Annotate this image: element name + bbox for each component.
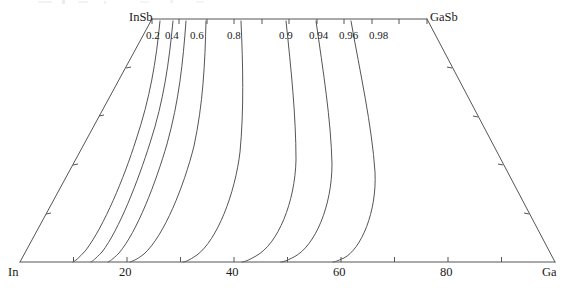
contour-label-0-4: 0.4: [165, 30, 179, 41]
contour-curve-0.98: [333, 21, 375, 262]
contour-curve-0.2: [73, 21, 160, 262]
contour-label-0-8: 0.8: [227, 30, 241, 41]
tick-left-2: [73, 164, 78, 165]
figure-canvas: InSb GaSb In Ga 20 40 60 80 0.2 0.4 0.6 …: [0, 0, 572, 290]
tick-right-2: [473, 116, 478, 117]
contour-plot-svg: [0, 0, 572, 290]
vertex-label-gasb: GaSb: [430, 11, 458, 24]
top-axis-ticks: [152, 19, 427, 24]
contour-curve-0.94: [242, 21, 296, 262]
contour-label-0-98: 0.98: [369, 30, 388, 41]
contour-label-0-94: 0.94: [309, 30, 328, 41]
contour-label-0-6: 0.6: [190, 30, 204, 41]
plot-frame: [20, 19, 555, 262]
axis-tick-label-40: 40: [226, 266, 239, 279]
vertex-label-in: In: [8, 266, 18, 279]
left-axis-ticks: [46, 67, 131, 214]
contour-curves: [73, 21, 375, 262]
contour-label-0-96: 0.96: [339, 30, 358, 41]
contour-curve-0.9: [183, 21, 243, 262]
axis-left: [20, 19, 152, 262]
axis-tick-label-80: 80: [440, 266, 453, 279]
tick-right-3: [498, 164, 503, 165]
bottom-axis-ticks: [74, 257, 502, 262]
contour-label-0-9: 0.9: [279, 30, 293, 41]
axis-tick-label-20: 20: [119, 266, 132, 279]
tick-right-1: [447, 67, 452, 68]
contour-curve-0.96: [281, 21, 332, 262]
contour-curve-0.6: [108, 21, 186, 262]
tick-left-4: [126, 67, 131, 68]
vertex-label-insb: InSb: [129, 11, 153, 24]
right-axis-ticks: [447, 67, 529, 214]
vertex-label-ga: Ga: [542, 266, 557, 279]
scan-artifact-strip: [38, 0, 204, 4]
axis-right: [427, 19, 555, 262]
tick-right-4: [524, 213, 529, 214]
axis-tick-label-60: 60: [333, 266, 346, 279]
contour-curve-0.4: [91, 21, 173, 262]
contour-label-0-2: 0.2: [146, 30, 160, 41]
